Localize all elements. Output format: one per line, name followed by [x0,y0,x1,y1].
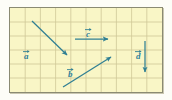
vector-label-b: b [68,70,73,79]
vector-label-a: a [24,52,29,61]
vector-label-d-text: d [136,51,141,61]
vector-label-d: d [136,52,141,61]
vector-a-arrow [32,21,67,55]
vector-label-a-text: a [24,51,29,61]
vector-label-b-text: b [68,69,73,79]
vector-diagram-figure: a c b d [0,0,172,100]
vector-accent-arrow-icon [67,67,74,71]
vector-label-c: c [86,30,90,39]
vector-accent-arrow-icon [23,49,30,53]
vector-accent-arrow-icon [135,49,142,53]
grid-panel: a c b d [9,7,163,93]
vector-accent-arrow-icon [85,27,92,31]
vector-label-c-text: c [86,29,90,39]
